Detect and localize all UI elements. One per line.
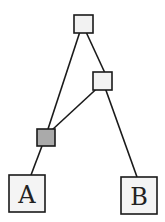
leaf-label-a: A [17,181,36,209]
root-node [74,15,93,33]
edge-hybrid-to-leaf-a [31,146,42,175]
leaf-label-b: B [130,183,148,211]
edge-mid-to-leaf-b [106,89,138,177]
reticulation-node [37,129,55,146]
network-diagram: A B [0,0,165,222]
internal-node [93,72,112,90]
edge-root-to-mid [87,33,105,72]
edge-root-to-hybrid [48,33,80,129]
